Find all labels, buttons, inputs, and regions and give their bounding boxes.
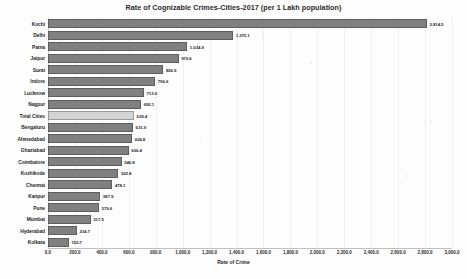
x-tick-label: 1,000.0 — [175, 250, 190, 255]
bar-value-label: 546.8 — [124, 159, 135, 164]
bar — [48, 42, 187, 51]
category-label: Hyderabad — [20, 228, 45, 233]
category-label: Ahmedabad — [17, 136, 45, 141]
x-tick-label: 2,200.0 — [337, 250, 352, 255]
bar-row: Lucknow713.0 — [48, 87, 452, 99]
plot-area: Kochi2,814.5Delhi1,375.1Patna1,034.9Jaip… — [48, 18, 452, 248]
bar-row: Indore796.6 — [48, 76, 452, 88]
gridline — [452, 18, 453, 248]
category-label: Nagpur — [28, 102, 45, 107]
bar-value-label: 214.7 — [79, 228, 90, 233]
bar-value-label: 600.4 — [131, 148, 142, 153]
bar-row: Kozhikode522.8 — [48, 168, 452, 180]
scan-artifact — [404, 175, 406, 177]
scan-artifact — [430, 120, 432, 122]
bar-row: Kochi2,814.5 — [48, 18, 452, 30]
category-label: Total Cities — [20, 113, 45, 118]
x-tick-label: 2,000.0 — [310, 250, 325, 255]
bar-row: Total Cities639.4 — [48, 110, 452, 122]
category-label: Chennai — [26, 182, 45, 187]
bar-row: Kolkata155.7 — [48, 237, 452, 249]
bar — [48, 111, 134, 120]
bar-value-label: 856.9 — [166, 67, 177, 72]
category-label: Surat — [33, 67, 45, 72]
bar — [48, 31, 233, 40]
category-label: Kozhikode — [21, 171, 45, 176]
category-label: Mumbai — [27, 217, 45, 222]
scan-artifact — [250, 35, 251, 36]
bar-value-label: 692.1 — [144, 102, 155, 107]
bar-value-label: 624.8 — [135, 136, 146, 141]
bar-row: Surat856.9 — [48, 64, 452, 76]
category-label: Lucknow — [24, 90, 45, 95]
x-axis-title: Rate of Crime — [0, 259, 467, 265]
bar-value-label: 379.6 — [102, 205, 113, 210]
bar — [48, 134, 132, 143]
bar — [48, 157, 122, 166]
bar-row: Mumbai317.5 — [48, 214, 452, 226]
bar-row: Coimbatore546.8 — [48, 156, 452, 168]
bar — [48, 226, 77, 235]
bar-row: Hyderabad214.7 — [48, 225, 452, 237]
bar — [48, 215, 91, 224]
scan-artifact — [262, 36, 264, 38]
bar-row: Bengaluru631.9 — [48, 122, 452, 134]
chart-title: Rate of Cognizable Crimes-Cities-2017 (p… — [0, 3, 467, 12]
x-tick-label: 1,400.0 — [229, 250, 244, 255]
bar-row: Patna1,034.9 — [48, 41, 452, 53]
bar-row: Pune379.6 — [48, 202, 452, 214]
x-tick-label: 1,200.0 — [202, 250, 217, 255]
category-label: Kolkata — [28, 240, 45, 245]
category-label: Coimbatore — [18, 159, 45, 164]
category-label: Delhi — [33, 33, 45, 38]
bar-value-label: 2,814.5 — [430, 21, 444, 26]
bar-row: Kanpur387.9 — [48, 191, 452, 203]
bar-row: Nagpur692.1 — [48, 99, 452, 111]
bar — [48, 88, 144, 97]
x-tick-label: 2,400.0 — [364, 250, 379, 255]
category-label: Bengaluru — [21, 125, 45, 130]
scan-artifact — [92, 215, 94, 217]
bar-row: Chennai478.1 — [48, 179, 452, 191]
bar-value-label: 631.9 — [136, 125, 147, 130]
x-tick-label: 2,600.0 — [391, 250, 406, 255]
bar — [48, 77, 155, 86]
bar — [48, 100, 141, 109]
category-label: Indore — [30, 79, 45, 84]
category-label: Patna — [32, 44, 45, 49]
bar-value-label: 522.8 — [121, 171, 132, 176]
bar-row: Ahmedabad624.8 — [48, 133, 452, 145]
bar-chart: Rate of Cognizable Crimes-Cities-2017 (p… — [0, 0, 467, 279]
bar-row: Jaipur970.6 — [48, 53, 452, 65]
x-axis-line — [48, 248, 452, 249]
bar-value-label: 1,034.9 — [190, 44, 204, 49]
bar-value-label: 1,375.1 — [236, 33, 250, 38]
bar-value-label: 970.6 — [181, 56, 192, 61]
x-tick-label: 1,600.0 — [256, 250, 271, 255]
bar — [48, 54, 179, 63]
category-label: Pune — [33, 205, 45, 210]
bar-value-label: 796.6 — [158, 79, 169, 84]
bar-value-label: 713.0 — [147, 90, 158, 95]
category-label: Kanpur — [28, 194, 45, 199]
bar — [48, 65, 163, 74]
bar-value-label: 155.7 — [71, 240, 82, 245]
x-tick-label: 3,000.0 — [444, 250, 459, 255]
bar-row: Ghaziabad600.4 — [48, 145, 452, 157]
bar — [48, 180, 112, 189]
bar — [48, 123, 133, 132]
bar-value-label: 317.5 — [93, 217, 104, 222]
x-tick-label: 200.0 — [69, 250, 80, 255]
bar-value-label: 387.9 — [103, 194, 114, 199]
bar — [48, 238, 69, 247]
bar — [48, 203, 99, 212]
bar-value-label: 478.1 — [115, 182, 126, 187]
category-label: Jaipur — [31, 56, 45, 61]
scan-artifact — [310, 62, 312, 64]
x-tick-label: 1,800.0 — [283, 250, 298, 255]
x-tick-label: 0.0 — [45, 250, 51, 255]
bar — [48, 19, 427, 28]
x-tick-label: 2,800.0 — [418, 250, 433, 255]
bar — [48, 146, 129, 155]
bar — [48, 169, 118, 178]
